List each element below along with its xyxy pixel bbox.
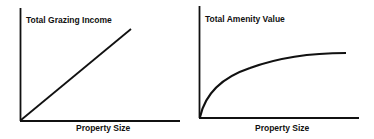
left-x-axis-label: Property Size	[76, 123, 130, 133]
left-grazing-income-line	[21, 29, 131, 120]
right-amenity-value-curve	[200, 53, 346, 117]
left-y-axis-label: Total Grazing Income	[26, 15, 112, 25]
right-x-axis-label: Property Size	[255, 123, 309, 133]
right-y-axis-label: Total Amenity Value	[205, 14, 285, 24]
